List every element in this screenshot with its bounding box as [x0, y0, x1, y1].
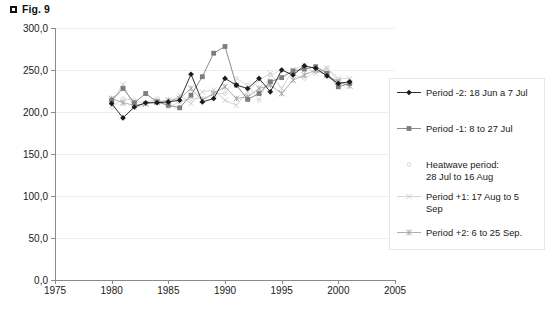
x-axis-label: 2000: [327, 285, 349, 296]
figure-title-label: Fig. 9: [22, 3, 50, 15]
x-axis-label: 1995: [271, 285, 293, 296]
data-point-square: [200, 74, 205, 79]
data-point-cross: [279, 86, 284, 91]
y-axis-label: 100,0: [23, 191, 48, 202]
x-axis-label: 1975: [44, 285, 66, 296]
data-point-diamond: [406, 90, 412, 96]
data-point-dot: [407, 163, 411, 167]
data-point-asterisk: [256, 86, 262, 92]
data-point-cross: [234, 103, 239, 108]
data-point-square: [223, 44, 228, 49]
chart-legend: Period -2: 18 Jun a 7 JulPeriod -1: 8 to…: [389, 78, 545, 250]
chart-series-layer: [55, 28, 395, 281]
data-point-square: [245, 97, 250, 102]
legend-item-4[interactable]: Period +2: 6 to 25 Sep.: [396, 227, 522, 239]
x-axis-label: 1990: [214, 285, 236, 296]
legend-item-2[interactable]: Heatwave period: 28 Jul to 16 Aug: [396, 159, 499, 182]
figure-title: Fig. 9: [10, 3, 50, 15]
x-tick-mark: [395, 280, 396, 284]
series-line: [112, 46, 350, 107]
y-axis-label: 0,0: [34, 275, 48, 286]
legend-marker-diamond: [396, 87, 422, 98]
x-axis-label: 1980: [101, 285, 123, 296]
legend-item-1[interactable]: Period -1: 8 to 27 Jul: [396, 123, 513, 135]
data-point-square: [143, 91, 148, 96]
legend-marker-dot: [396, 159, 422, 170]
legend-label: Period -2: 18 Jun a 7 Jul: [426, 87, 528, 99]
data-point-asterisk: [222, 84, 228, 90]
data-point-diamond: [222, 76, 228, 82]
data-point-square: [177, 105, 182, 110]
x-axis-label: 1985: [157, 285, 179, 296]
series-line: [112, 68, 350, 107]
legend-label: Period -1: 8 to 27 Jul: [426, 123, 513, 135]
data-point-square: [257, 91, 262, 96]
legend-label: Period +2: 6 to 25 Sep.: [426, 227, 522, 239]
legend-item-3[interactable]: Period +1: 17 Aug to 5 Sep: [396, 191, 519, 214]
data-point-cross: [188, 101, 193, 106]
data-point-square: [268, 79, 273, 84]
data-point-square: [189, 93, 194, 98]
data-point-diamond: [188, 71, 194, 77]
data-point-diamond: [200, 99, 206, 105]
legend-label: Period +1: 17 Aug to 5 Sep: [426, 191, 519, 214]
legend-marker-cross: [396, 191, 422, 202]
x-axis-label: 2005: [384, 285, 406, 296]
legend-marker-asterisk: [396, 227, 422, 238]
y-axis-label: 50,0: [29, 233, 48, 244]
legend-item-0[interactable]: Period -2: 18 Jun a 7 Jul: [396, 87, 528, 99]
y-axis-label: 300,0: [23, 23, 48, 34]
y-axis-label: 200,0: [23, 107, 48, 118]
y-axis-label: 250,0: [23, 65, 48, 76]
chart-plot-area: 0,050,0100,0150,0200,0250,0300,0 1975198…: [55, 28, 395, 281]
data-point-asterisk: [279, 91, 285, 97]
data-point-diamond: [279, 67, 285, 73]
data-point-diamond: [211, 96, 217, 102]
y-axis-label: 150,0: [23, 149, 48, 160]
data-point-square: [279, 75, 284, 80]
legend-label: Heatwave period: 28 Jul to 16 Aug: [426, 159, 499, 182]
data-point-asterisk: [188, 86, 194, 92]
data-point-square: [211, 51, 216, 56]
data-point-asterisk: [302, 72, 308, 78]
black-square-icon: [10, 6, 17, 13]
data-point-cross: [222, 98, 227, 103]
data-point-asterisk: [290, 77, 296, 83]
data-point-square: [121, 86, 126, 91]
data-point-square: [407, 126, 412, 131]
legend-marker-square: [396, 123, 422, 134]
